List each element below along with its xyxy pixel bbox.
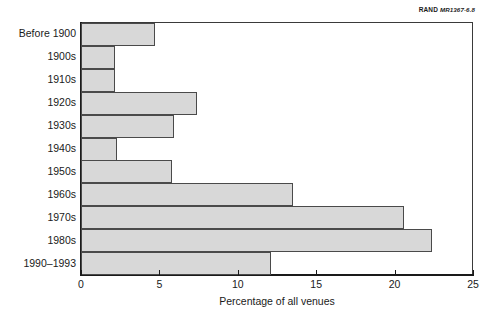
y-axis-tick-label: Before 1900 <box>0 27 76 39</box>
bar-row <box>81 115 473 138</box>
bar <box>81 206 404 229</box>
x-axis-tick-label: 10 <box>232 278 244 290</box>
y-axis-tick-label: 1900s <box>0 50 76 62</box>
bar-row <box>81 183 473 206</box>
x-axis-tick-label: 0 <box>78 278 84 290</box>
bar <box>81 252 271 275</box>
y-axis-tick-label: 1950s <box>0 165 76 177</box>
y-axis-tick-label: 1920s <box>0 96 76 108</box>
rand-source-tag: RANDMR1367-6.8 <box>419 7 475 14</box>
rand-org-label: RAND <box>419 6 438 13</box>
bar <box>81 229 432 252</box>
bar <box>81 69 115 92</box>
x-axis-ticks: 0510152025 <box>0 275 494 295</box>
bar <box>81 92 197 115</box>
x-axis-tick-mark <box>159 270 160 275</box>
x-axis-tick-mark <box>473 270 474 275</box>
x-axis-title: Percentage of all venues <box>80 295 474 307</box>
bar <box>81 160 172 183</box>
bar <box>81 46 115 69</box>
x-axis-tick-label: 20 <box>389 278 401 290</box>
bar <box>81 23 155 46</box>
bar-row <box>81 46 473 69</box>
bar-row <box>81 252 473 275</box>
x-axis-tick-label: 5 <box>156 278 162 290</box>
bar-row <box>81 138 473 161</box>
bar-row <box>81 160 473 183</box>
bar-chart-figure: RANDMR1367-6.8 Before 19001900s1910s1920… <box>0 0 494 321</box>
x-axis-tick-label: 15 <box>310 278 322 290</box>
y-axis-tick-label: 1940s <box>0 142 76 154</box>
y-axis-tick-label: 1960s <box>0 188 76 200</box>
bar-row <box>81 92 473 115</box>
y-axis-tick-label: 1910s <box>0 73 76 85</box>
bar <box>81 115 174 138</box>
bar-row <box>81 206 473 229</box>
x-axis-tick-mark <box>81 270 82 275</box>
x-axis-tick-mark <box>395 270 396 275</box>
bar <box>81 183 293 206</box>
y-axis-category-labels: Before 19001900s1910s1920s1930s1940s1950… <box>0 22 76 275</box>
y-axis-tick-label: 1980s <box>0 234 76 246</box>
bars-layer <box>81 23 473 275</box>
y-axis-tick-label: 1990–1993 <box>0 257 76 269</box>
x-axis-tick-mark <box>238 270 239 275</box>
y-axis-tick-label: 1930s <box>0 119 76 131</box>
x-axis-tick-mark <box>316 270 317 275</box>
bar-row <box>81 69 473 92</box>
bar <box>81 138 117 161</box>
bar-row <box>81 229 473 252</box>
bar-row <box>81 23 473 46</box>
y-axis-tick-label: 1970s <box>0 211 76 223</box>
x-axis-tick-label: 25 <box>467 278 479 290</box>
rand-figure-code: MR1367-6.8 <box>440 6 475 13</box>
